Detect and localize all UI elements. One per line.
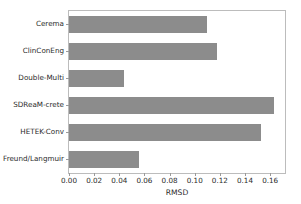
bar-sdream-crete[interactable] [69,97,274,114]
x-tick-label: 0.16 [262,177,278,184]
y-tick-mark [66,132,69,133]
y-tick-mark [66,159,69,160]
x-tick-label: 0.02 [86,177,102,184]
bar-row: Double-Multi [69,70,285,87]
bar-freund-langmuir[interactable] [69,151,139,168]
y-tick-mark [66,51,69,52]
bar-row: SDReaM-crete [69,97,285,114]
bar-chart-figure: CeremaClinConEngDouble-MultiSDReaM-crete… [0,0,301,204]
bar-hetek-conv[interactable] [69,124,261,141]
x-tick-label: 0.08 [162,177,178,184]
bar-row: Cerema [69,16,285,33]
x-tick-label: 0.04 [111,177,127,184]
y-tick-label: Double-Multi [18,75,64,82]
x-tick-label: 0.00 [61,177,77,184]
bar-cerema[interactable] [69,16,207,33]
bar-row: Freund/Langmuir [69,151,285,168]
x-tick-label: 0.10 [187,177,203,184]
y-tick-label: HETEK-Conv [20,129,64,136]
bar-double-multi[interactable] [69,70,124,87]
y-tick-mark [66,78,69,79]
bar-row: HETEK-Conv [69,124,285,141]
y-tick-mark [66,24,69,25]
x-axis-label: RMSD [68,189,286,197]
y-tick-label: Freund/Langmuir [3,156,64,163]
y-tick-mark [66,105,69,106]
bar-row: ClinConEng [69,43,285,60]
x-tick-label: 0.12 [212,177,228,184]
x-tick-label: 0.14 [237,177,253,184]
bar-clinconeng[interactable] [69,43,217,60]
plot-area: CeremaClinConEngDouble-MultiSDReaM-crete… [68,10,286,174]
y-tick-label: SDReaM-crete [13,102,64,109]
y-tick-label: Cerema [36,21,64,28]
y-tick-label: ClinConEng [23,48,64,55]
x-tick-label: 0.06 [136,177,152,184]
